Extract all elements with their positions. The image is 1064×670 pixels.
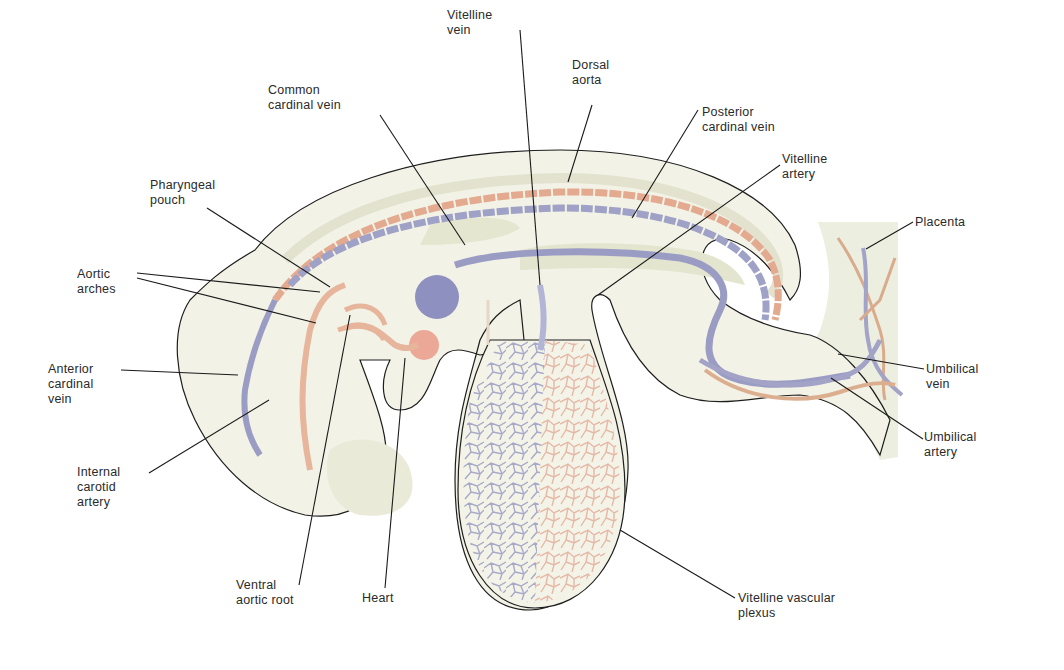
diagram-illustration xyxy=(0,0,1064,670)
leader-vitelline-vascular-plexus xyxy=(620,530,735,598)
label-posterior-cardinal-vein: Posterior cardinal vein xyxy=(702,105,775,135)
embryo-circulation-diagram: Vitelline vein Common cardinal vein Dors… xyxy=(0,0,1064,670)
label-vitelline-artery: Vitelline artery xyxy=(782,152,827,182)
label-internal-carotid-artery: Internal carotid artery xyxy=(77,465,120,510)
label-dorsal-aorta: Dorsal aorta xyxy=(572,58,609,88)
label-anterior-cardinal-vein: Anterior cardinal vein xyxy=(48,362,93,407)
label-placenta: Placenta xyxy=(915,215,965,230)
label-aortic-arches: Aortic arches xyxy=(77,267,116,297)
label-vitelline-vascular-plexus: Vitelline vascular plexus xyxy=(738,591,835,621)
label-umbilical-artery: Umbilical artery xyxy=(924,430,977,460)
label-pharyngeal-pouch: Pharyngeal pouch xyxy=(150,178,215,208)
label-umbilical-vein: Umbilical vein xyxy=(926,362,979,392)
label-ventral-aortic-root: Ventral aortic root xyxy=(236,578,294,608)
label-heart: Heart xyxy=(362,591,394,606)
label-vitelline-vein: Vitelline vein xyxy=(447,8,492,38)
label-common-cardinal-vein: Common cardinal vein xyxy=(268,83,341,113)
